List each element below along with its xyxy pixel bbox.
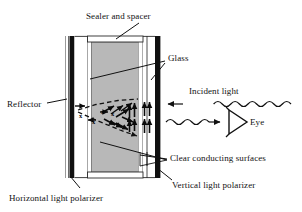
eye-icon (226, 107, 247, 137)
glass-left-layer (75, 36, 88, 178)
horizontal-light-polarizer-layer (70, 36, 75, 178)
lcd-cross-section-figure: Sealer and spacer Glass Incident light E… (0, 0, 302, 212)
liquid-crystal-layer (92, 42, 139, 172)
outgoing-light-wave (166, 120, 220, 125)
label-eye: Eye (250, 117, 264, 127)
label-x-marker-2: x (92, 118, 95, 125)
label-reflector: Reflector (7, 99, 41, 109)
label-incident-light: Incident light (189, 86, 239, 96)
reflector-layer (66, 36, 69, 178)
label-vertical-light-polarizer: Vertical light polarizer (172, 180, 255, 190)
incident-light-wave (168, 102, 291, 107)
label-horizontal-light-polarizer: Horizontal light polarizer (9, 193, 103, 203)
label-sealer-and-spacer: Sealer and spacer (86, 11, 151, 21)
label-x-marker-1: x (79, 112, 82, 119)
label-x-marker-4: x (111, 110, 114, 117)
label-x-marker-3: x (101, 108, 104, 115)
label-glass: Glass (168, 53, 189, 63)
label-clear-conducting-surfaces: Clear conducting surfaces (170, 153, 266, 163)
diagram-canvas (0, 0, 302, 212)
